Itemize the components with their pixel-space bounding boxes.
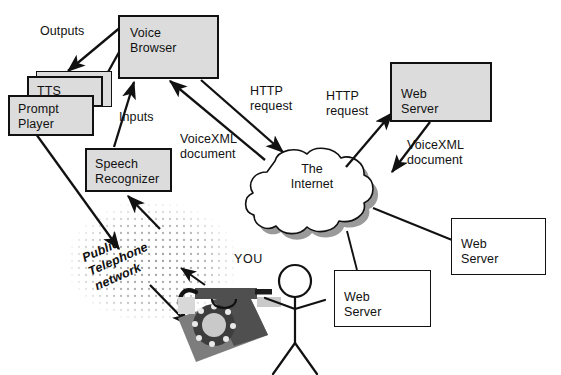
internet-cloud-label: The Internet (272, 162, 352, 192)
link-internet-to-web-server-bottom (347, 231, 357, 270)
edge-label-voicexml-document-right: VoiceXML document (407, 138, 464, 168)
node-web-server-bottom[interactable]: Web Server (334, 270, 431, 327)
voicexml-architecture-diagram: TTS Prompt Player Voice Browser Speech R… (0, 0, 561, 375)
node-web-server-right[interactable]: Web Server (451, 218, 546, 275)
edge-label-http-request-left: HTTP request (250, 84, 292, 114)
arrow-internet-to-web-server-top-http (346, 113, 392, 167)
actor-you-label: YOU (234, 252, 263, 266)
edge-label-inputs: Inputs (119, 110, 154, 125)
link-internet-to-web-server-right (373, 208, 452, 240)
node-speech-recognizer[interactable]: Speech Recognizer (85, 148, 172, 192)
node-voice-browser[interactable]: Voice Browser (118, 15, 219, 79)
edge-label-voicexml-document-left: VoiceXML document (180, 132, 237, 162)
edge-label-http-request-right: HTTP request (326, 89, 368, 119)
node-web-server-top[interactable]: Web Server (390, 62, 492, 122)
node-prompt-player[interactable]: Prompt Player (8, 95, 94, 136)
edge-label-outputs: Outputs (40, 24, 84, 39)
stick-figure-user (265, 265, 325, 374)
